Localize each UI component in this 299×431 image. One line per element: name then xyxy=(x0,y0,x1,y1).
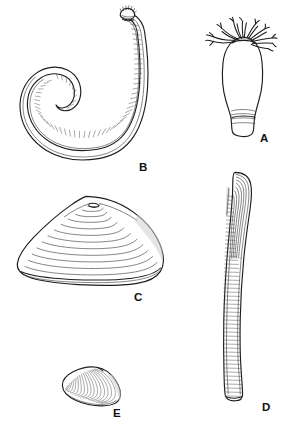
figure-d-razor-clam-shell xyxy=(224,172,252,400)
specimen-plate: A B C D E xyxy=(0,0,299,431)
figure-label-d: D xyxy=(262,402,271,414)
figure-a-body xyxy=(222,37,262,137)
figure-label-b: B xyxy=(139,162,148,174)
figure-label-c: C xyxy=(134,292,143,304)
figure-b-medial-line-outer xyxy=(30,20,139,149)
figure-label-a: A xyxy=(260,133,269,145)
figure-b-elongate-hooked-worm xyxy=(20,6,148,160)
figure-e-small-bivalve-shell xyxy=(62,367,121,406)
figure-label-e: E xyxy=(113,408,121,420)
figure-e-valve-outline xyxy=(62,367,120,406)
figure-b-segment-rungs-right xyxy=(35,24,142,138)
figure-c-valve-outline xyxy=(17,196,163,285)
figure-a-tentacled-sac-organism xyxy=(206,17,277,136)
plate-artwork xyxy=(0,0,299,431)
figure-c-large-bivalve-shell xyxy=(17,196,163,285)
figure-b-head-crown xyxy=(120,6,136,20)
